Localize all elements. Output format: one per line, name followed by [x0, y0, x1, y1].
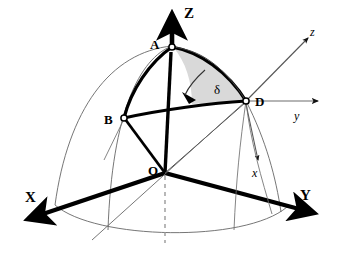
point-B-marker	[121, 115, 127, 121]
axis-label-Z: Z	[184, 6, 194, 21]
axis-label-y-local: y	[294, 110, 299, 122]
axis-label-X: X	[25, 190, 36, 205]
diagram-canvas: Z X Y z y x A B D O δ	[0, 0, 340, 257]
axis-z-local	[246, 38, 308, 101]
axis-Y	[165, 173, 314, 213]
axis-label-Y: Y	[300, 188, 311, 203]
meridian-arc-left	[55, 46, 172, 205]
diagram-svg	[0, 0, 340, 257]
point-label-O: O	[148, 164, 158, 177]
axis-label-x-local: x	[252, 167, 257, 179]
equator-arc	[55, 205, 287, 233]
arc-A-B	[124, 47, 172, 118]
point-A-marker	[169, 44, 175, 50]
angle-delta-wedge	[173, 47, 246, 104]
axis-X	[28, 173, 165, 219]
thin-arc-D-2	[234, 101, 246, 230]
segment-O-B	[125, 119, 165, 173]
point-label-B: B	[104, 113, 113, 126]
angle-label-delta: δ	[214, 83, 220, 96]
point-label-A: A	[150, 38, 159, 51]
point-D-marker	[243, 98, 249, 104]
point-label-D: D	[255, 95, 264, 108]
arc-B-D	[124, 101, 246, 118]
segment-O-A	[165, 52, 171, 173]
axis-label-z-local: z	[310, 26, 315, 38]
